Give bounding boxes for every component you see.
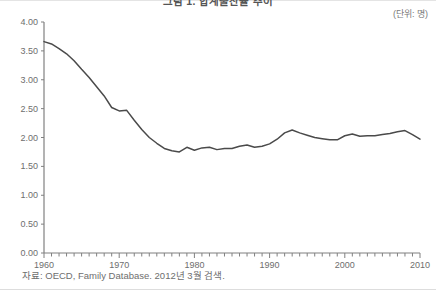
chart-plot-area: [0, 0, 436, 290]
x-tick-label: 2010: [400, 261, 436, 270]
y-tick-label: 1.50: [4, 162, 38, 171]
y-tick-label: 2.00: [4, 134, 38, 143]
y-tick-label: 3.00: [4, 76, 38, 85]
y-tick-label: 1.00: [4, 191, 38, 200]
y-tick-label: 3.50: [4, 47, 38, 56]
x-tick-label: 1990: [250, 261, 290, 270]
source-note: 자료: OECD, Family Database. 2012년 3월 검색.: [22, 268, 225, 282]
y-tick-label: 0.00: [4, 249, 38, 258]
y-tick-label: 2.50: [4, 105, 38, 114]
axes-group: [44, 22, 420, 253]
y-tick-label: 0.50: [4, 220, 38, 229]
y-tick-label: 4.00: [4, 18, 38, 27]
x-axis-ticks: [44, 253, 420, 258]
x-tick-label: 2000: [325, 261, 365, 270]
figure-container: 그림 1. 합계출산율 추이 (단위: 명) 0.000.501.001.502…: [0, 0, 436, 290]
data-line-series: [44, 42, 420, 152]
